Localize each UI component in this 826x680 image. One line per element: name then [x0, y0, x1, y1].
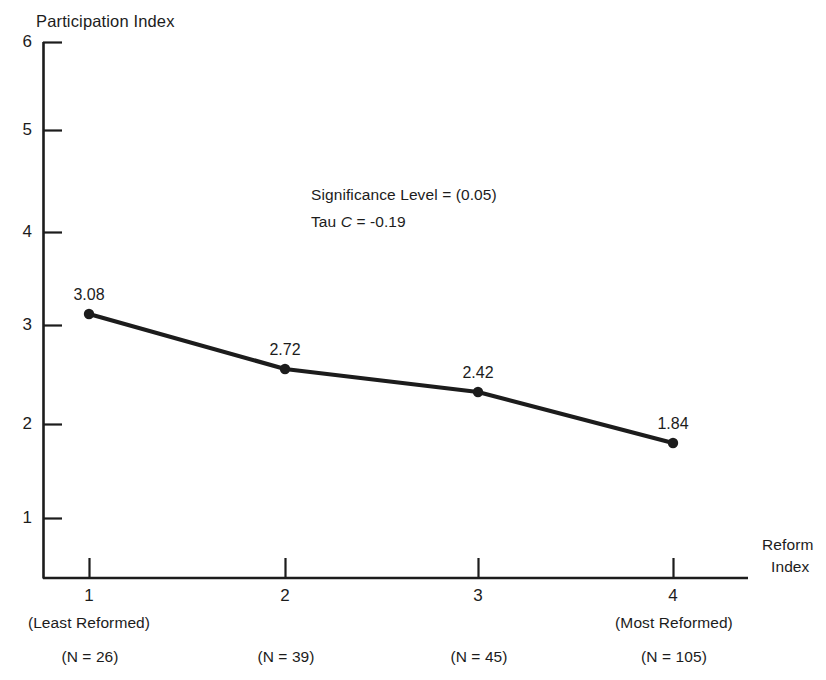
group-size-2: (N = 39) — [230, 648, 342, 666]
data-point-3 — [473, 387, 483, 397]
y-tick-marks — [43, 43, 62, 519]
x-tick-label-3: 3 — [448, 586, 508, 606]
category-note-1: (Least Reformed) — [14, 614, 164, 632]
group-size-4: (N = 105) — [615, 648, 733, 666]
x-tick-marks — [90, 558, 674, 578]
x-axis-title-line1: Reform — [762, 536, 813, 554]
annotation-significance: Significance Level = (0.05) — [311, 186, 497, 204]
annotation-tau-symbol: C — [341, 213, 352, 230]
group-size-1: (N = 26) — [34, 648, 146, 666]
x-tick-label-2: 2 — [255, 586, 315, 606]
y-tick-label-4: 4 — [0, 222, 32, 242]
x-tick-label-1: 1 — [59, 586, 119, 606]
data-point-1 — [84, 309, 94, 319]
y-tick-label-2: 2 — [0, 414, 32, 434]
category-note-4: (Most Reformed) — [598, 614, 750, 632]
data-point-4 — [668, 438, 678, 448]
data-line — [89, 314, 673, 443]
group-size-3: (N = 45) — [423, 648, 535, 666]
x-axis-title-line2: Index — [771, 558, 809, 576]
y-tick-label-1: 1 — [0, 508, 32, 528]
annotation-tau-prefix: Tau — [311, 213, 341, 230]
data-point-2 — [280, 364, 290, 374]
plot-area — [0, 0, 826, 680]
y-tick-label-3: 3 — [0, 315, 32, 335]
point-value-label-4: 1.84 — [635, 415, 711, 434]
point-value-label-1: 3.08 — [51, 286, 127, 305]
chart-figure: Participation Index — [0, 0, 826, 680]
annotation-tau-value: = -0.19 — [352, 213, 406, 230]
annotation-tau: Tau C = -0.19 — [311, 213, 406, 231]
point-value-label-2: 2.72 — [247, 341, 323, 360]
point-value-label-3: 2.42 — [440, 364, 516, 383]
y-tick-label-5: 5 — [0, 120, 32, 140]
x-tick-label-4: 4 — [643, 586, 703, 606]
y-tick-label-6: 6 — [0, 32, 32, 52]
